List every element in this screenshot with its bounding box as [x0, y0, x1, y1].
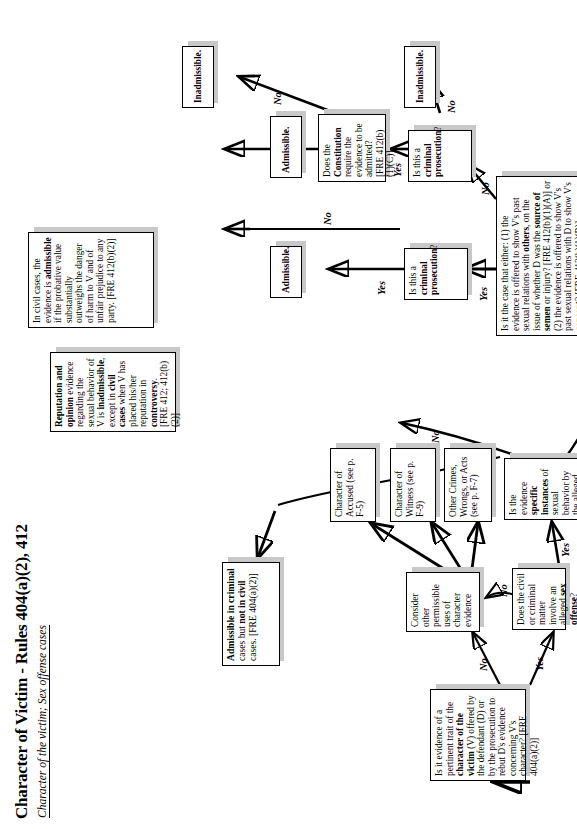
edge-label-start-no: No [478, 658, 489, 671]
flowchart-page: Character of Victim - Rules 404(a)(2), 4… [0, 0, 577, 829]
edge-label-crim2-no: No [446, 100, 457, 113]
edge-label-either-no: No [480, 182, 491, 195]
node-inadmissible-2[interactable]: Inadmissible. [404, 46, 436, 108]
node-admissible-404[interactable]: Admissible in criminal cases but not in … [222, 562, 280, 666]
edge-const-no [240, 77, 330, 111]
node-inadmissible-1[interactable]: Inadmissible. [182, 46, 214, 108]
edge-to-admissible404 [258, 511, 275, 557]
edge-label-specific-no: No [430, 430, 441, 443]
node-criminal-prosecution-2[interactable]: Is this a criminal prosecution? [408, 130, 472, 182]
edge-label-sexoffense-yes: Yes [560, 543, 571, 557]
edge-label-either-yes: Yes [478, 287, 489, 301]
node-either-case-question[interactable]: Is it the case that either: (1) the evid… [496, 176, 577, 336]
rotated-chart-wrapper: Character of Victim - Rules 404(a)(2), 4… [0, 0, 577, 829]
node-admissible-1[interactable]: Admissible. [270, 246, 302, 298]
edge-label-start-yes: Yes [534, 657, 545, 671]
edge-label-crim1-no: No [322, 212, 333, 225]
edge-consider-crimes [472, 523, 478, 569]
node-consider-other-uses[interactable]: Consider other permissible uses of chara… [406, 572, 480, 632]
edge-label-crim1-yes: Yes [376, 281, 387, 295]
node-other-crimes-wrongs-acts[interactable]: Other Crimes, Wrongs, or Acts (see p. F-… [444, 448, 492, 522]
page-title: Character of Victim - Rules 404(a)(2), 4… [12, 524, 32, 819]
node-character-of-witness[interactable]: Character of Witness (see p. F-9) [390, 448, 436, 522]
node-reputation-opinion[interactable]: Reputation and opinion evidence regardin… [50, 352, 176, 432]
node-constitution-question[interactable]: Does the Constitution require the eviden… [318, 114, 386, 182]
page-subtitle: Character of the victim; Sex offense cas… [36, 625, 50, 818]
edge-label-crim2-yes: Yes [392, 163, 403, 177]
node-criminal-prosecution-1[interactable]: Is this a criminal prosecution? [404, 248, 468, 300]
flowchart-canvas: Character of Victim - Rules 404(a)(2), 4… [0, 0, 577, 829]
edge-label-const-no: No [272, 92, 283, 105]
node-civil-balancing[interactable]: In civil cases, the evidence is admissib… [28, 232, 154, 328]
edge-label-sexoffense-no: No [498, 584, 509, 597]
node-character-of-accused[interactable]: Character of Accused (see p. F-5) [330, 448, 376, 522]
node-admissible-2[interactable]: Admissible. [270, 116, 302, 178]
node-specific-instances-question[interactable]: Is the evidence specific instances of se… [504, 458, 577, 520]
node-start-question[interactable]: Is it evidence of a pertinent trait of t… [430, 689, 526, 781]
node-sex-offense-question[interactable]: Does the civil or criminal matter involv… [512, 568, 566, 630]
